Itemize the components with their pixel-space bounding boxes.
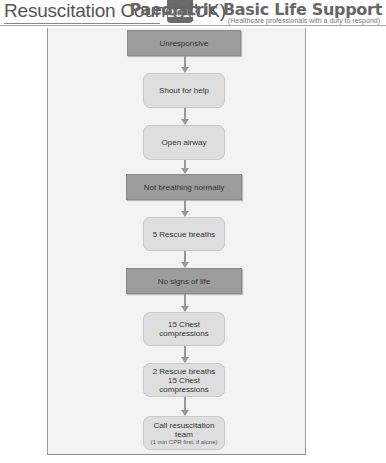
- node-15-chest-compressions: 15 Chest compressions: [143, 312, 225, 346]
- arrow: [184, 294, 186, 311]
- arrow: [184, 346, 186, 362]
- arrow: [184, 200, 186, 216]
- node-label: Open airway: [162, 138, 207, 147]
- node-label: Unresponsive: [160, 39, 209, 48]
- node-label: 5 Rescue breaths: [153, 230, 216, 239]
- node-label: No signs of life: [158, 277, 210, 286]
- node-label: 15 Chest compressions: [144, 320, 224, 338]
- node-open-airway: Open airway: [143, 125, 225, 160]
- node-label: Call resuscitation team: [144, 421, 224, 439]
- node-label-line2: 15 Chest compressions: [144, 376, 224, 394]
- arrow: [184, 397, 186, 415]
- node-label: Shout for help: [159, 86, 209, 95]
- node-label: Not breathing normally: [144, 183, 224, 192]
- node-label: 2 Rescue breaths: [153, 367, 216, 376]
- arrow: [184, 108, 186, 124]
- node-no-signs-of-life: No signs of life: [126, 268, 242, 294]
- node-note: (1 min CPR first, if alone): [150, 439, 217, 445]
- node-unresponsive: Unresponsive: [127, 30, 241, 56]
- node-call-resuscitation-team: Call resuscitation team (1 min CPR first…: [143, 416, 225, 450]
- header-rule: [0, 25, 386, 26]
- node-5-rescue-breaths: 5 Rescue breaths: [143, 217, 225, 251]
- node-shout-for-help: Shout for help: [143, 73, 225, 108]
- arrow: [184, 251, 186, 267]
- arrow: [184, 56, 186, 72]
- page-subtitle: (Healthcare professionals with a duty to…: [228, 17, 380, 24]
- node-cpr-cycle: 2 Rescue breaths 15 Chest compressions: [143, 363, 225, 397]
- arrow: [184, 160, 186, 173]
- organization-underline: [4, 23, 160, 24]
- node-not-breathing-normally: Not breathing normally: [126, 174, 242, 200]
